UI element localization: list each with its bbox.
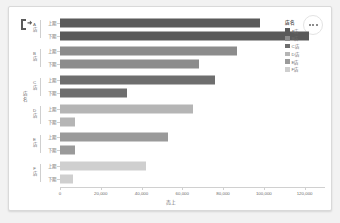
bar[interactable] bbox=[60, 18, 260, 27]
legend-item[interactable]: E店 bbox=[285, 59, 329, 65]
legend-label: E店 bbox=[292, 59, 299, 65]
x-tick bbox=[182, 187, 183, 190]
legend-swatch bbox=[285, 28, 290, 33]
bar-row: 下期 bbox=[45, 144, 333, 157]
legend-item[interactable]: B店 bbox=[285, 35, 329, 41]
subcategory-label: 上期 bbox=[45, 48, 56, 54]
legend-swatch bbox=[285, 59, 290, 64]
legend-label: F店 bbox=[292, 66, 299, 72]
bar-rows: 上期下期 bbox=[45, 74, 333, 100]
bar[interactable] bbox=[60, 76, 215, 85]
bar-row: 下期 bbox=[45, 115, 333, 128]
x-tick bbox=[264, 187, 265, 190]
bar-rows: 上期下期 bbox=[45, 160, 333, 186]
bar[interactable] bbox=[60, 60, 199, 69]
legend-title: 店名 bbox=[285, 19, 329, 25]
x-axis-ticks: 020,00040,00060,00080,000100,000120,000 bbox=[60, 187, 325, 197]
x-tick-label: 40,000 bbox=[135, 191, 148, 196]
legend-label: B店 bbox=[292, 35, 299, 41]
bar[interactable] bbox=[60, 133, 168, 142]
legend-item[interactable]: A店 bbox=[285, 28, 329, 34]
bar-group: C店上期下期 bbox=[9, 72, 333, 101]
legend-swatch bbox=[285, 52, 290, 57]
x-tick bbox=[101, 187, 102, 190]
legend-item[interactable]: C店 bbox=[285, 43, 329, 49]
bar[interactable] bbox=[60, 117, 75, 126]
bar-rows: 上期下期 bbox=[45, 102, 333, 128]
bar[interactable] bbox=[60, 31, 309, 40]
legend-items: A店B店C店D店E店F店 bbox=[285, 28, 329, 73]
bar-rows: 上期下期 bbox=[45, 131, 333, 157]
x-tick bbox=[142, 187, 143, 190]
x-tick-label: 80,000 bbox=[216, 191, 229, 196]
subcategory-label: 下期 bbox=[45, 176, 56, 182]
subcategory-label: 上期 bbox=[45, 77, 56, 83]
legend-swatch bbox=[285, 67, 290, 72]
category-label: E店 bbox=[31, 137, 37, 146]
subcategory-label: 下期 bbox=[45, 61, 56, 67]
bar-group: F店上期下期 bbox=[9, 158, 333, 187]
category-label: B店 bbox=[31, 51, 37, 60]
bar-row: 上期 bbox=[45, 131, 333, 144]
x-tick-label: 20,000 bbox=[94, 191, 107, 196]
bar[interactable] bbox=[60, 89, 127, 98]
subcategory-label: 下期 bbox=[45, 119, 56, 125]
subcategory-label: 下期 bbox=[45, 90, 56, 96]
legend-item[interactable]: F店 bbox=[285, 66, 329, 72]
legend-label: D店 bbox=[292, 51, 299, 57]
legend-label: A店 bbox=[292, 28, 299, 34]
subcategory-label: 下期 bbox=[45, 33, 56, 39]
legend-label: C店 bbox=[292, 43, 299, 49]
bar[interactable] bbox=[60, 162, 146, 171]
x-tick-label: 0 bbox=[59, 191, 61, 196]
x-tick bbox=[60, 187, 61, 190]
x-tick bbox=[305, 187, 306, 190]
subcategory-label: 上期 bbox=[45, 134, 56, 140]
bar[interactable] bbox=[60, 47, 237, 56]
category-label: C店 bbox=[31, 80, 37, 89]
x-axis-title: 売上 bbox=[9, 198, 333, 205]
legend-swatch bbox=[285, 44, 290, 49]
subcategory-label: 上期 bbox=[45, 20, 56, 26]
bar-row: 下期 bbox=[45, 173, 333, 186]
legend-item[interactable]: D店 bbox=[285, 51, 329, 57]
bar[interactable] bbox=[60, 146, 75, 155]
legend-swatch bbox=[285, 36, 290, 41]
legend: 店名 A店B店C店D店E店F店 bbox=[285, 19, 329, 74]
subcategory-label: 上期 bbox=[45, 163, 56, 169]
category-label: A店 bbox=[31, 22, 37, 31]
screenshot-canvas: 店名 A店上期下期B店上期下期C店上期下期D店上期下期E店上期下期F店上期下期 … bbox=[0, 0, 340, 223]
bar-group: E店上期下期 bbox=[9, 130, 333, 159]
bar-row: 上期 bbox=[45, 160, 333, 173]
x-tick-label: 60,000 bbox=[176, 191, 189, 196]
subcategory-label: 下期 bbox=[45, 147, 56, 153]
bar-row: 上期 bbox=[45, 102, 333, 115]
bar[interactable] bbox=[60, 175, 73, 184]
category-label: F店 bbox=[31, 166, 37, 175]
x-tick-label: 100,000 bbox=[256, 191, 272, 196]
x-tick-label: 120,000 bbox=[297, 191, 313, 196]
category-label: D店 bbox=[31, 108, 37, 117]
bar-row: 下期 bbox=[45, 87, 333, 100]
subcategory-label: 上期 bbox=[45, 106, 56, 112]
bar-chart-visual[interactable]: 店名 A店上期下期B店上期下期C店上期下期D店上期下期E店上期下期F店上期下期 … bbox=[8, 6, 332, 211]
bar-row: 上期 bbox=[45, 74, 333, 87]
bar-group: D店上期下期 bbox=[9, 101, 333, 130]
x-tick bbox=[223, 187, 224, 190]
bar[interactable] bbox=[60, 104, 193, 113]
